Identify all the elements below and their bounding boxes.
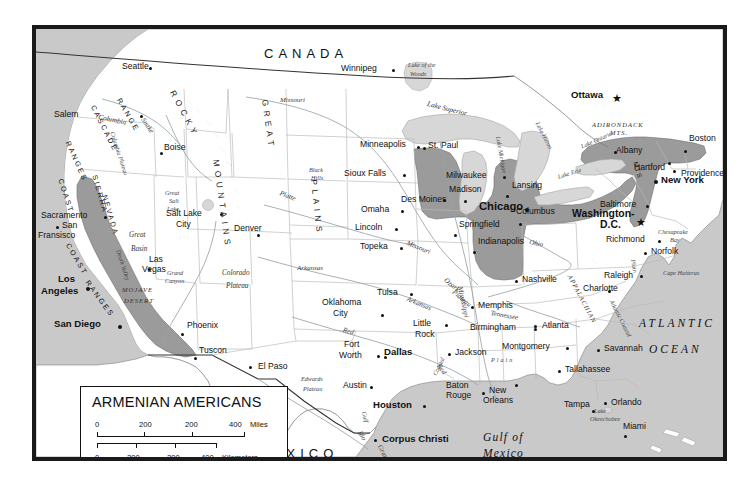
- country-label-canada: CANADA: [264, 47, 348, 60]
- city-label-san: San: [62, 221, 77, 230]
- great-salt-lake: [203, 200, 214, 211]
- city-label-rouge: Rouge: [446, 391, 471, 400]
- city-label-atlanta: Atlanta: [542, 321, 569, 330]
- city-label-tuscon: Tuscon: [199, 346, 227, 355]
- scale-km-bar: [97, 443, 217, 448]
- gulf-label-line1: Gulf of: [483, 432, 524, 444]
- feature-lake-okeechobee-1: Lake: [594, 408, 606, 414]
- city-label-savannah: Savannah: [604, 344, 643, 353]
- feature-adirondack-mts: MTS.: [610, 130, 628, 137]
- city-label-nashville: Nashville: [522, 275, 557, 284]
- feature-lake-of-the-woods-1: Lake of the: [408, 62, 436, 68]
- scale-miles-unit: Miles: [250, 420, 268, 429]
- ocean-label-atlantic: ATLANTIC: [639, 318, 715, 330]
- city-label-sioux-falls: Sioux Falls: [344, 169, 386, 178]
- city-label-vegas: Vegas: [142, 265, 166, 274]
- feature-chesapeake-bay: Bay: [670, 237, 680, 243]
- scale-miles-tick-0: 0: [95, 420, 99, 429]
- city-label-washington: Washington-: [572, 209, 635, 219]
- feature-great-salt-lake-2: Salt: [169, 198, 179, 204]
- scale-bar-kilometers: 0 200 200 400 Kilometers: [95, 443, 275, 461]
- city-label-houston: Houston: [373, 400, 412, 410]
- gulf-label-line2: Mexico: [483, 448, 524, 460]
- city-label-los: Los: [58, 274, 75, 284]
- city-label-sacramento: Sacramento: [41, 211, 87, 220]
- city-label-dc: D.C.: [600, 220, 621, 230]
- city-label-winnipeg: Winnipeg: [341, 64, 377, 73]
- scale-miles-tick-3: 400: [229, 420, 242, 429]
- feature-cape-hatteras: Cape Hatteras: [663, 270, 699, 276]
- city-label-worth: Worth: [339, 351, 362, 360]
- feature-great-salt-lake-1: Great: [165, 190, 179, 196]
- city-label-topeka: Topeka: [360, 242, 388, 251]
- city-label-little: Little: [413, 319, 431, 328]
- city-label-springfield: Springfield: [459, 220, 500, 229]
- city-label-new-york: New York: [661, 175, 704, 185]
- city-label-albany: Albany: [616, 146, 642, 155]
- city-label-phoenix: Phoenix: [187, 321, 218, 330]
- city-label-raleigh: Raleigh: [604, 271, 633, 280]
- river-label-arkansas-west: Arkansas: [297, 265, 323, 272]
- scale-km-tickmark-1: [136, 443, 137, 448]
- city-label-charlotte: Charlotte: [583, 284, 618, 293]
- city-label-angeles: Angeles: [41, 286, 78, 296]
- city-label-denver: Denver: [234, 224, 262, 233]
- city-label-austin: Austin: [343, 381, 367, 390]
- city-label-lincoln: Lincoln: [355, 223, 382, 232]
- feature-lake-okeechobee-2: Okeechobee: [590, 416, 620, 422]
- city-label-salt-lake-city2: City: [176, 220, 191, 229]
- city-label-minneapolis: Minneapolis: [360, 140, 406, 149]
- city-label-tallahassee: Tallahassee: [565, 365, 610, 374]
- feature-mojave: MOJAVE: [122, 287, 153, 294]
- city-label-oklahoma-city2: City: [333, 309, 348, 318]
- feature-canyon: Canyon: [165, 278, 184, 284]
- legend-title: ARMENIAN AMERICANS: [92, 394, 262, 410]
- scale-km-unit: Kilometers: [222, 453, 258, 461]
- city-label-miami: Miami: [623, 422, 646, 431]
- feature-colorado-plateau-2: Plateau: [226, 283, 248, 290]
- city-label-ottawa: Ottawa: [571, 90, 603, 100]
- feature-adirondack: ADIRONDACK: [592, 122, 644, 129]
- city-label-lansing: Lansing: [512, 181, 542, 190]
- city-label-seattle: Seattle: [122, 62, 149, 71]
- scale-km-tick-2: 200: [167, 453, 180, 461]
- scale-bar-miles: 0 200 200 400 Miles: [95, 420, 275, 440]
- city-label-fransisco: Fransisco: [38, 231, 75, 240]
- scale-km-tickmark-2: [175, 443, 176, 448]
- city-label-hartford: Hartford: [634, 163, 665, 172]
- city-label-norfolk: Norfolk: [651, 247, 678, 256]
- feature-chesapeake: Chesapeake: [658, 229, 688, 235]
- city-label-omaha: Omaha: [361, 205, 389, 214]
- feature-great-basin-1: Great: [129, 232, 146, 239]
- city-label-baton: Baton: [446, 381, 468, 390]
- city-label-richmond: Richmond: [606, 235, 645, 244]
- city-label-rock: Rock: [415, 330, 435, 339]
- city-label-indianapolis: Indianapolis: [478, 237, 524, 246]
- city-label-las: Las: [149, 255, 163, 264]
- feature-lake-of-the-woods-2: Woods: [410, 71, 426, 77]
- feature-black-hills-1: Black: [309, 167, 323, 173]
- city-label-fort: Fort: [344, 340, 359, 349]
- scale-km-tick-0: 0: [95, 453, 99, 461]
- city-label-orlando: Orlando: [611, 398, 642, 407]
- city-label-milwaukee: Milwaukee: [446, 171, 487, 180]
- city-label-corpus-christi: Corpus Christi: [382, 434, 449, 444]
- capital-star-washington: ★: [636, 217, 646, 228]
- city-label-jackson: Jackson: [455, 348, 487, 357]
- feature-edwards-plateau: Plateau: [303, 386, 322, 392]
- city-label-boston: Boston: [689, 134, 716, 143]
- city-label-tulsa: Tulsa: [377, 288, 398, 297]
- river-label-missouri-north: Missouri: [280, 97, 305, 104]
- city-label-columbus: Columbus: [516, 207, 555, 216]
- feature-great-basin-2: Basin: [131, 246, 147, 253]
- city-label-memphis: Memphis: [478, 301, 513, 310]
- map-frame: CANADA MEXICO ATLANTIC OCEAN Gulf of Mex…: [32, 25, 727, 461]
- feature-grand: Grand: [167, 270, 183, 276]
- feature-desert: DESERT: [124, 298, 154, 305]
- city-label-new: New: [489, 386, 506, 395]
- scale-miles-tickmark-1: [144, 432, 145, 437]
- city-label-madison: Madison: [449, 185, 481, 194]
- feature-plain: Plain: [491, 357, 514, 363]
- city-label-salt-lake: Salt Lake: [166, 209, 202, 218]
- feature-edwards: Edwards: [301, 376, 323, 382]
